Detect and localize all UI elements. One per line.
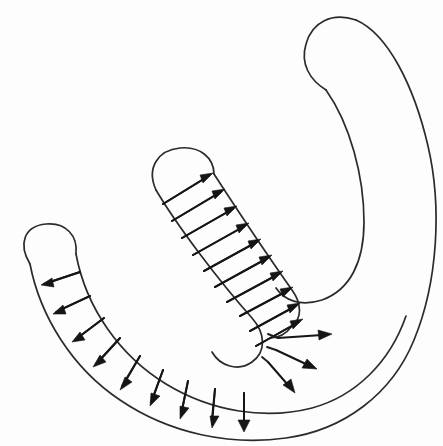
tongue-arrow-shaft	[250, 308, 292, 331]
tongue-arrow-head	[287, 303, 300, 313]
fan-connector-stub	[267, 347, 276, 350]
tongue-arrow-shaft	[215, 260, 264, 287]
tongue-arrow-shaft	[227, 276, 275, 302]
tongue-arrow-head	[248, 239, 261, 249]
tongue-arrow-head	[290, 319, 303, 329]
fan-connector-stub	[262, 357, 268, 362]
tongue-right-edge-path	[214, 174, 300, 326]
band-arrow-head	[53, 305, 66, 314]
tongue-arrow-head	[259, 255, 272, 265]
band-arrow-head	[150, 393, 160, 406]
tongue-arrow-shaft	[240, 292, 285, 316]
tongue-arrow-head	[200, 173, 213, 183]
band-arrow-shaft	[80, 318, 104, 336]
tongue-arrow-head	[270, 271, 283, 281]
outer-lower-edge-path	[30, 20, 436, 440]
tongue-arrow-head	[224, 206, 237, 216]
diagram-canvas	[0, 0, 443, 446]
band-arrow-shaft	[153, 370, 163, 398]
tongue-arrow-shaft	[163, 178, 205, 204]
tongue-left-edge-path	[156, 190, 263, 367]
band-arrow-head	[238, 420, 250, 432]
band-arrow-shaft	[50, 272, 80, 282]
band-arrow-head	[210, 416, 219, 428]
band-arrow-head	[120, 377, 132, 390]
elbow-fan-arrows-group	[262, 330, 332, 393]
inner-boundary-path	[76, 254, 406, 413]
band-arrow-shaft	[100, 338, 120, 360]
tongue-arrow-shaft	[204, 244, 253, 271]
lower-band-normal-arrows-group	[41, 272, 250, 432]
tongue-arrow-shaft	[172, 194, 217, 221]
figure-root: Line drawing of a horseshoe-shaped band …	[0, 0, 443, 446]
fan-arrow-head	[302, 359, 317, 369]
tongue-arrow-head	[212, 189, 225, 199]
band-arrow-shaft	[125, 356, 140, 382]
horseshoe-outline-group	[24, 17, 436, 440]
tongue-cap-path	[152, 148, 214, 190]
band-arrow-head	[180, 406, 189, 419]
outer-boundary-path	[24, 224, 76, 264]
tongue-arrow-shaft	[182, 211, 229, 238]
tongue-normal-arrows-group	[163, 173, 303, 346]
upper-arm-inner-edge-path	[276, 90, 364, 303]
band-arrow-shaft	[62, 296, 90, 309]
fan-arrow-shaft	[276, 350, 308, 365]
fan-arrow-head	[318, 330, 332, 340]
tongue-arrow-head	[236, 223, 249, 233]
fan-arrow-shaft	[268, 362, 288, 385]
fan-arrow-shaft	[278, 335, 322, 338]
band-arrow-head	[41, 278, 54, 287]
upper-arm-cap-path	[304, 17, 356, 90]
tongue-arrow-shaft	[193, 228, 241, 255]
